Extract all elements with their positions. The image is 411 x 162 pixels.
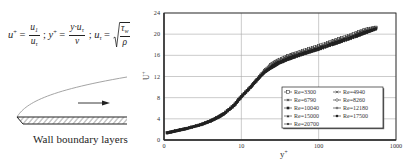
- legend-label: Re=15000: [294, 113, 319, 119]
- y-tick-label: 0: [157, 136, 160, 143]
- legend-label: Re=4940: [343, 89, 365, 95]
- legend: Re=3300Re=6790Re=10040Re=15000Re=20700Re…: [282, 87, 384, 129]
- legend-label: Re=10040: [294, 105, 319, 111]
- legend-label: Re=12180: [343, 105, 368, 111]
- y-tick-label: 12: [154, 73, 160, 80]
- open-circle-marker: [336, 99, 339, 102]
- y-tick-label: 16: [154, 51, 160, 58]
- filled-square-marker: [287, 107, 290, 110]
- x-tick-label: 100: [314, 142, 323, 149]
- x-tick-label: 0: [162, 142, 165, 149]
- y-axis-label: U+: [141, 71, 151, 80]
- legend-label: Re=3300: [294, 89, 316, 95]
- y-tick-label: 20: [154, 30, 160, 37]
- x-tick-label: 1000: [390, 142, 402, 149]
- y-tick-label: 8: [157, 94, 160, 101]
- legend-label: Re=6790: [294, 97, 316, 103]
- x-tick-label: 10: [238, 142, 244, 149]
- y-tick-label: 24: [154, 9, 160, 16]
- legend-label: Re=17500: [343, 113, 368, 119]
- legend-label: Re=8260: [343, 97, 365, 103]
- legend-label: Re=20700: [294, 121, 319, 127]
- velocity-profile-chart: 048121620240101001000 y+U+ Re=3300Re=679…: [0, 0, 411, 162]
- x-axis-label: y+: [280, 149, 288, 159]
- filled-circle-marker: [336, 115, 339, 118]
- open-square-marker: [287, 91, 290, 94]
- y-tick-label: 4: [157, 115, 160, 122]
